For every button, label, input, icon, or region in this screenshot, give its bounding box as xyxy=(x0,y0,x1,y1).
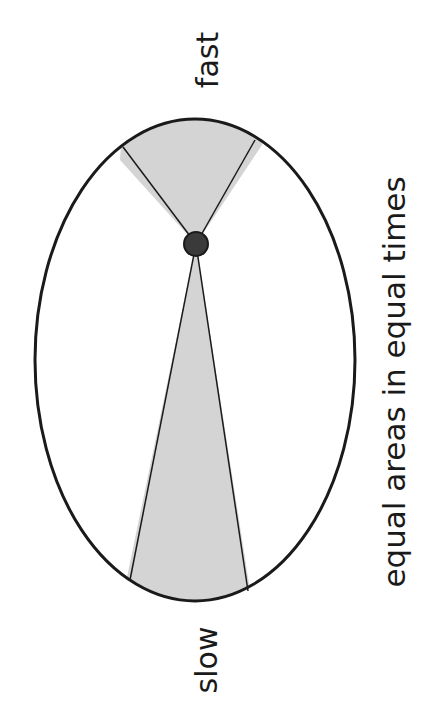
slow-label: slow xyxy=(189,627,224,694)
focus-sun-dot xyxy=(184,232,208,256)
kepler-diagram: fast slow equal areas in equal times xyxy=(0,0,432,726)
caption-label: equal areas in equal times xyxy=(376,176,412,587)
fast-label: fast xyxy=(190,32,225,89)
fast-sector xyxy=(120,90,270,244)
